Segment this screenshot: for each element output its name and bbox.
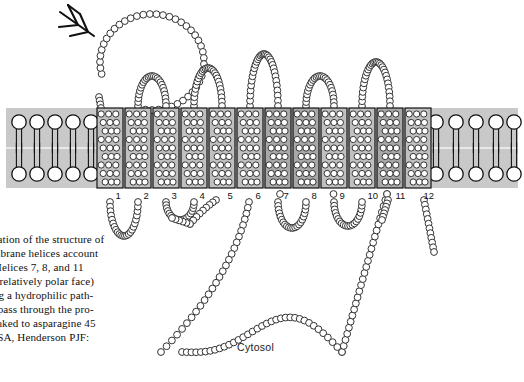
cytosol-label: Cytosol: [237, 341, 274, 353]
extracellular-loop-10-11: [359, 59, 394, 110]
figure-panel: 123456789101112 representation of the st…: [0, 0, 524, 382]
helix-8: [293, 108, 319, 188]
helix-number-7: 7: [284, 190, 289, 201]
helix-4: [181, 108, 207, 188]
helix-10: [349, 108, 375, 188]
helix-9: [321, 108, 347, 188]
helix-number-3: 3: [172, 190, 177, 201]
helix-number-11: 11: [396, 190, 406, 201]
branched-glycan-icon: [59, 5, 94, 36]
caption-line-4: in forming a hydrophilic path-: [0, 288, 186, 302]
caption-line-2: protein. Helices 7, 8, and 11: [0, 260, 186, 274]
caption-line-3: have one relatively polar face): [0, 274, 186, 288]
helix-5: [209, 108, 235, 188]
helix-number-6: 6: [256, 190, 261, 201]
cytoplasmic-loop-7-8: [275, 199, 310, 232]
c-terminal-tail: [421, 197, 438, 256]
helix-1: [97, 108, 123, 188]
helix-2: [125, 108, 151, 188]
figure-caption: representation of the structure of trans…: [0, 232, 186, 358]
helix-7: [265, 108, 291, 188]
caption-line-0: representation of the structure of: [0, 232, 186, 246]
helix-6: [237, 108, 263, 188]
helix-number-5: 5: [228, 190, 233, 201]
helix-11: [377, 108, 403, 188]
helix-3: [153, 108, 179, 188]
extracellular-loop-2-3: [135, 73, 170, 110]
caption-line-5: lecule to pass through the pro-: [0, 302, 186, 316]
helix-number-8: 8: [312, 190, 317, 201]
helix-number-12: 12: [424, 190, 435, 201]
cytoplasmic-loop-9-10: [331, 199, 366, 230]
extracellular-loop-8-9: [303, 73, 338, 110]
caption-line-1: transmembrane helices account: [0, 246, 186, 260]
caption-line-8: 9.): [0, 344, 186, 358]
helix-number-9: 9: [340, 190, 345, 201]
helix-12: [405, 108, 431, 188]
extracellular-loop-6-7: [247, 51, 282, 110]
helix-number-1: 1: [116, 190, 121, 201]
helix-number-4: 4: [200, 190, 205, 201]
caption-line-7: Baldwin SA, Henderson PJF:: [0, 330, 186, 344]
helix-number-2: 2: [144, 190, 149, 201]
helix-number-10: 10: [368, 190, 379, 201]
extracellular-loop-4-5: [191, 65, 226, 110]
caption-line-6: in is N-linked to asparagine 45: [0, 316, 186, 330]
